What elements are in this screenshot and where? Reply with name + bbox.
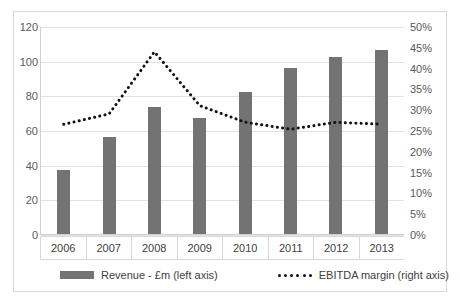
bar-slot bbox=[177, 27, 222, 234]
x-axis-label-2007: 2007 bbox=[87, 237, 133, 259]
bar-slot bbox=[223, 27, 268, 234]
x-axis-label-2009: 2009 bbox=[178, 237, 224, 259]
revenue-bar[interactable] bbox=[239, 92, 252, 234]
bar-slot bbox=[359, 27, 404, 234]
right-axis-tick: 10% bbox=[410, 187, 432, 199]
bar-slot bbox=[268, 27, 313, 234]
revenue-bar[interactable] bbox=[148, 107, 161, 234]
left-axis-tick: 100 bbox=[20, 56, 38, 68]
left-axis-tick: 0 bbox=[32, 229, 38, 241]
left-axis-tick: 120 bbox=[20, 21, 38, 33]
x-axis-label-2010: 2010 bbox=[223, 237, 269, 259]
bar-slot bbox=[132, 27, 177, 234]
x-axis: 20062007200820092010201120122013 bbox=[40, 236, 404, 260]
right-axis-tick: 40% bbox=[410, 63, 432, 75]
revenue-bar[interactable] bbox=[103, 137, 116, 234]
dotted-line-icon bbox=[278, 271, 312, 279]
bar-series bbox=[41, 27, 404, 234]
right-axis-tick: 5% bbox=[410, 208, 426, 220]
right-axis-tick: 25% bbox=[410, 125, 432, 137]
legend-item-revenue: Revenue - £m (left axis) bbox=[60, 269, 218, 281]
x-axis-label-2011: 2011 bbox=[269, 237, 315, 259]
bar-slot bbox=[313, 27, 358, 234]
left-axis-tick: 40 bbox=[26, 160, 38, 172]
legend-label-ebitda: EBITDA margin (right axis) bbox=[319, 269, 449, 281]
bar-swatch-icon bbox=[60, 271, 94, 279]
revenue-bar[interactable] bbox=[57, 170, 70, 234]
bar-slot bbox=[41, 27, 86, 234]
x-axis-label-2012: 2012 bbox=[314, 237, 360, 259]
right-axis-tick: 15% bbox=[410, 167, 432, 179]
right-axis-tick: 0% bbox=[410, 229, 426, 241]
right-axis-tick: 20% bbox=[410, 146, 432, 158]
bar-slot bbox=[86, 27, 131, 234]
left-axis-tick: 80 bbox=[26, 90, 38, 102]
right-axis-tick: 50% bbox=[410, 21, 432, 33]
left-axis: 120 100 80 60 40 20 0 bbox=[13, 27, 38, 235]
right-axis: 50% 45% 40% 35% 30% 25% 20% 15% 10% 5% 0… bbox=[406, 27, 442, 235]
plot-area bbox=[40, 27, 404, 235]
chart-legend: Revenue - £m (left axis) EBITDA margin (… bbox=[40, 262, 420, 288]
left-axis-tick: 60 bbox=[26, 125, 38, 137]
right-axis-tick: 35% bbox=[410, 83, 432, 95]
x-axis-label-2006: 2006 bbox=[40, 237, 87, 259]
legend-label-revenue: Revenue - £m (left axis) bbox=[101, 269, 218, 281]
revenue-bar[interactable] bbox=[193, 118, 206, 234]
x-axis-label-2008: 2008 bbox=[132, 237, 178, 259]
chart-container: 120 100 80 60 40 20 0 50% 45% 40% 35% 30… bbox=[0, 0, 460, 303]
left-axis-tick: 20 bbox=[26, 194, 38, 206]
x-axis-label-2013: 2013 bbox=[360, 237, 405, 259]
right-axis-tick: 45% bbox=[410, 42, 432, 54]
revenue-bar[interactable] bbox=[375, 50, 388, 234]
legend-item-ebitda: EBITDA margin (right axis) bbox=[278, 269, 449, 281]
right-axis-tick: 30% bbox=[410, 104, 432, 116]
revenue-bar[interactable] bbox=[329, 57, 342, 234]
revenue-bar[interactable] bbox=[284, 68, 297, 234]
